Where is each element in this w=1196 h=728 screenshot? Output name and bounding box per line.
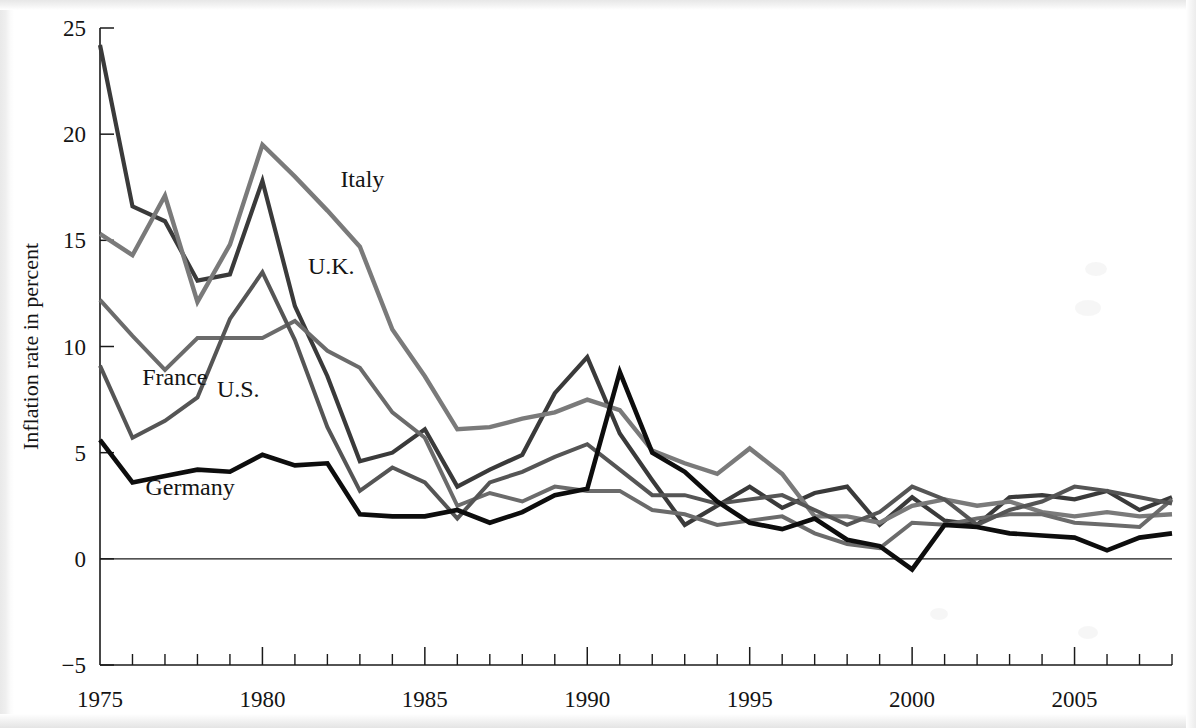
series-line-germany (100, 372, 1172, 569)
inflation-line-chart: −505101520251975198019851990199520002005… (0, 0, 1196, 728)
x-axis-tick-label: 1995 (727, 687, 773, 712)
series-label-us: U.S. (217, 376, 260, 402)
series-label-italy: Italy (340, 166, 384, 192)
x-axis-tick-label: 1985 (402, 687, 448, 712)
y-axis-title: Inflation rate in percent (18, 243, 43, 450)
series-label-germany: Germany (145, 474, 234, 500)
y-axis-tick-label: 10 (63, 335, 86, 360)
series-line-uk (100, 45, 1172, 525)
series-line-italy (100, 145, 1172, 523)
y-axis-tick-label: 20 (63, 122, 86, 147)
series-line-us (100, 272, 1172, 525)
x-axis-tick-label: 1990 (564, 687, 610, 712)
series-label-france: France (142, 364, 207, 390)
x-axis-tick-label: 1980 (239, 687, 285, 712)
y-axis-tick-label: −5 (62, 653, 86, 678)
y-axis-tick-label: 25 (63, 16, 86, 41)
y-axis-tick-label: 5 (75, 441, 87, 466)
x-axis-tick-label: 1975 (77, 687, 123, 712)
y-axis-tick-label: 15 (63, 228, 86, 253)
y-axis-tick-label: 0 (75, 547, 87, 572)
x-axis-tick-label: 2005 (1052, 687, 1098, 712)
x-axis-tick-label: 2000 (889, 687, 935, 712)
figure-page: −505101520251975198019851990199520002005… (0, 0, 1196, 728)
series-label-uk: U.K. (308, 253, 355, 279)
